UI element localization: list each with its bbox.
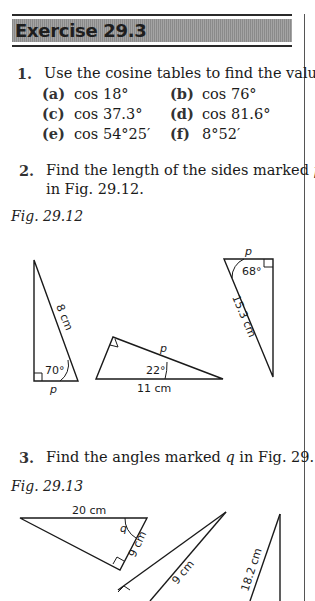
part-value: cos 18° [74,86,129,102]
label-11cm: 11 cm [137,382,171,395]
label-p: p [244,245,252,258]
label-15-3cm: 15.3 cm [229,293,258,339]
part-e: (e)cos 54°25′ [42,124,150,144]
question-text: Find the length of the sides marked [46,162,314,178]
question-2: 2. Find the length of the sides marked p… [19,161,299,201]
header-top-rule [12,14,292,16]
label-20cm: 20 cm [72,504,106,517]
label-22deg: 22° [146,364,166,377]
part-value: cos 54°25′ [74,126,150,142]
part-d: (d)cos 81.6° [170,104,270,124]
question-number: 1. [17,64,32,83]
part-label: (d) [170,104,202,123]
label-p: p [159,342,167,355]
variable-q: q [225,449,234,465]
part-a: (a)cos 18° [42,84,129,104]
question-text: Find the angles marked [46,449,225,465]
part-b: (b)cos 76° [170,84,257,104]
question-number: 2. [19,161,34,180]
figure-29-13: 20 cm q 9 cm 9 cm 18.2 cm [0,500,315,600]
part-value: cos 37.3° [74,106,142,122]
part-value: cos 81.6° [202,106,270,122]
exercise-header: Exercise 29.3 [12,19,292,42]
exercise-title: Exercise 29.3 [15,19,147,42]
part-c: (c)cos 37.3° [42,104,142,124]
label-8cm: 8 cm [53,302,75,332]
label-9cm: 9 cm [126,529,149,559]
question-text-line-1: Find the length of the sides marked p [46,161,315,180]
label-p: p [49,383,57,396]
question-text: Use the cosine tables to find the values… [44,64,315,83]
figure-caption: Fig. 29.12 [11,208,83,224]
figure-caption: Fig. 29.13 [11,478,83,494]
part-label: (c) [42,104,74,123]
question-3: 3. Find the angles marked q in Fig. 29.1… [19,448,304,467]
question-text-line: Find the angles marked q in Fig. 29.13. [46,448,315,467]
triangle-1 [20,518,147,570]
part-label: (e) [42,124,74,143]
label-q: q [120,522,127,535]
figure-29-12: 8 cm 70° p p 22° 11 cm p 68° 15.3 cm [0,240,315,390]
label-70deg: 70° [45,364,65,377]
header-bottom-rule [12,45,292,47]
label-9cm: 9 cm [169,558,196,587]
part-label: (b) [170,84,202,103]
part-value: cos 76° [202,86,257,102]
question-text-line-2: in Fig. 29.12. [46,180,144,199]
part-label: (a) [42,84,74,103]
variable-p: p [314,162,315,178]
part-f: (f)8°52′ [170,124,240,144]
part-value: 8°52′ [202,126,240,142]
question-text: in Fig. 29.13. [235,449,315,465]
label-68deg: 68° [242,265,262,278]
question-1: 1. Use the cosine tables to find the val… [17,64,297,83]
question-number: 3. [19,448,34,467]
part-label: (f) [170,124,202,143]
